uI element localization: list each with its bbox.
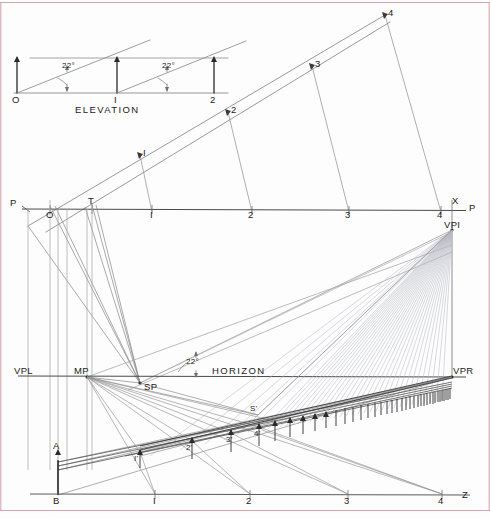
- ground-station-1: I: [153, 496, 156, 506]
- pp-right-label: P: [469, 203, 476, 213]
- riser-label-2: 2': [186, 444, 193, 452]
- elevation-label-o: O: [12, 95, 20, 105]
- elevation-caption: ELEVATION: [75, 105, 140, 115]
- pp-left-label: P: [10, 198, 17, 208]
- horizon-angle-label: 22°: [186, 358, 199, 366]
- pp-station-1: I: [150, 210, 153, 220]
- perspective-drawing-page: O I 2 ELEVATION 22° 22° I 2 3 4 P O T I …: [0, 0, 490, 519]
- ground-station-2: 2: [246, 496, 252, 506]
- ground-label-a: A: [53, 441, 60, 451]
- pp-x-label: X: [452, 196, 459, 206]
- riser-label-4: 4': [254, 430, 261, 438]
- drawing-canvas: [0, 0, 490, 519]
- horizon-vpl-label: VPL: [14, 366, 33, 376]
- pp-station-4: 4: [437, 210, 443, 220]
- incline-rung-label-2: 2: [231, 105, 237, 115]
- riser-label-1: I': [134, 455, 138, 463]
- ground-station-4: 4: [438, 496, 444, 506]
- elevation-label-2: 2: [210, 95, 216, 105]
- pp-station-2: 2: [248, 210, 254, 220]
- horizon-sp-label: SP: [144, 382, 157, 392]
- pp-station-o: O: [46, 210, 54, 220]
- pp-station-t: T: [88, 196, 94, 206]
- riser-label-s: S': [250, 405, 257, 413]
- elevation-diagram: [14, 40, 246, 93]
- incline-rung-label-3: 3: [315, 59, 321, 69]
- s-prime-construction: [87, 230, 452, 415]
- picture-plane-line: [22, 200, 466, 378]
- incline-rung-label-4: 4: [388, 8, 394, 18]
- horizon-vpr-label: VPR: [453, 366, 473, 376]
- elevation-angle-1: 22°: [62, 62, 75, 70]
- ground-station-3: 3: [344, 496, 350, 506]
- ground-label-z: Z: [462, 490, 468, 500]
- ground-label-b: B: [53, 496, 60, 506]
- horizon-vpi-label: VPI: [444, 220, 460, 230]
- vertical-projectors: [28, 200, 92, 495]
- incline-rung-label-1: I: [143, 148, 146, 158]
- riser-label-3: 3': [226, 436, 233, 444]
- elevation-angle-2: 22°: [162, 62, 175, 70]
- horizon-mp-label: MP: [74, 366, 89, 376]
- horizon-label: HORIZON: [212, 366, 266, 376]
- pp-station-3: 3: [345, 210, 351, 220]
